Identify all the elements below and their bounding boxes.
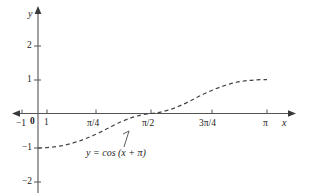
curve-equation-label: y = cos (x + π) [86,148,146,158]
x-tick-label-pi-over-2: π/2 [142,119,154,129]
cosine-shift-graph-figure: −1 0 1 π/4 π/2 3π/4 π 2 1 −1 −2 y x y = … [0,0,310,193]
x-tick-label-pi-over-4: π/4 [87,119,99,129]
x-tick-label-1: 1 [44,118,49,128]
x-axis-label: x [282,118,286,128]
y-tick-label-2: 2 [27,41,32,51]
x-axis-right-arrow-icon [288,110,296,117]
y-axis-arrow-icon [35,6,42,14]
x-tick-label-neg1: −1 [16,119,26,129]
y-tick-label-neg2: −2 [22,177,32,187]
y-axis-label: y [28,9,32,19]
y-tick-label-neg1: −1 [22,143,32,153]
x-axis-left-arrow-icon [12,110,20,117]
x-tick-label-3pi-over-4: 3π/4 [199,119,216,129]
x-axis-ticks [22,110,267,114]
annotation-leader-line [123,131,129,147]
x-tick-label-0: 0 [30,117,35,127]
x-tick-label-pi: π [263,119,268,129]
plot-canvas [0,0,310,193]
y-tick-label-1: 1 [27,75,32,85]
